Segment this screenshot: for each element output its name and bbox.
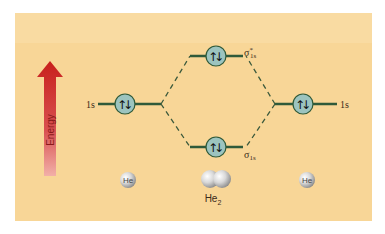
electron-down-icon: ↓ [123,98,133,112]
right-he-atom: He [299,172,315,188]
correlation-lines [161,56,275,147]
svg-text:He: He [302,176,313,185]
antibonding-orbital: ↑ ↓ σ*1s [190,46,256,66]
antibonding-label: σ*1s [244,46,256,60]
bonding-label: σ1s [244,149,256,162]
mo-diagram: Energy ↑ ↓ 1s ↑ ↓ 1s ↑ ↓ σ*1s ↑ ↓ σ1s [0,0,385,234]
right-1s-label: 1s [340,99,349,110]
left-1s-label: 1s [86,99,95,110]
electron-down-icon: ↓ [214,141,224,155]
right-1s-orbital: ↑ ↓ 1s [275,94,349,114]
left-he-atom: He [120,172,136,188]
energy-arrow: Energy [37,61,63,176]
left-1s-orbital: ↑ ↓ 1s [86,94,161,114]
bonding-orbital: ↑ ↓ σ1s [190,137,256,162]
electron-down-icon: ↓ [301,98,311,112]
he2-molecule: He2 [201,170,231,206]
he2-label: He2 [205,193,222,206]
svg-text:He: He [123,176,134,185]
energy-axis-label: Energy [45,114,56,146]
electron-down-icon: ↓ [214,50,224,64]
